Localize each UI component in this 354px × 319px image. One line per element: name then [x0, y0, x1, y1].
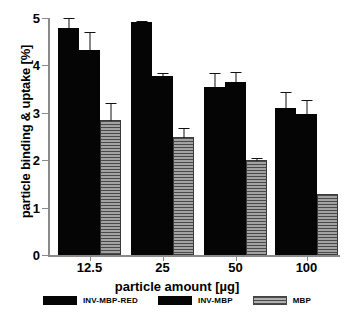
x-axis-tick-label: 25: [128, 261, 198, 274]
x-axis-tick: [90, 257, 91, 261]
x-axis-tick-label: 100: [272, 261, 342, 274]
x-axis-tick-label: 12.5: [55, 261, 125, 274]
bar-group: [204, 18, 267, 255]
error-bar: [68, 18, 69, 28]
bar-mbp-50: [246, 160, 267, 255]
error-bar: [162, 73, 163, 76]
y-axis-title: particle binding & uptake [%]: [18, 12, 33, 252]
y-axis-tick: [42, 255, 49, 256]
bar-inv-mbp-red-100: [275, 108, 296, 255]
chart-legend: INV-MBP-REDINV-MBPMBP: [0, 296, 354, 305]
legend-item-mbp: MBP: [253, 296, 311, 305]
bar-group: [58, 18, 121, 255]
y-axis-tick: [42, 65, 49, 66]
x-axis-tick: [163, 257, 164, 261]
error-bar: [183, 128, 184, 137]
error-bar-cap: [280, 92, 291, 93]
legend-swatch: [158, 296, 192, 305]
x-axis-tick-label: 50: [201, 261, 271, 274]
error-bar: [235, 72, 236, 82]
legend-swatch: [253, 296, 287, 305]
error-bar-cap: [84, 32, 95, 33]
error-bar-cap: [136, 21, 147, 22]
bar-inv-mbp-25: [152, 76, 173, 255]
legend-item-inv-mbp: INV-MBP: [158, 296, 233, 305]
legend-swatch: [43, 296, 77, 305]
error-bar: [110, 103, 111, 121]
error-bar: [285, 92, 286, 108]
x-axis-tick: [307, 257, 308, 261]
bar-inv-mbp-red-50: [204, 87, 225, 255]
x-axis-tick: [236, 257, 237, 261]
error-bar: [141, 21, 142, 22]
x-axis-line: [48, 255, 340, 257]
bar-mbp-25: [173, 137, 194, 256]
error-bar-cap: [157, 73, 168, 74]
bar-group: [131, 18, 194, 255]
error-bar: [89, 32, 90, 50]
legend-label: INV-MBP: [198, 296, 233, 305]
legend-label: MBP: [293, 296, 311, 305]
x-axis-title: particle amount [µg]: [0, 279, 354, 294]
y-axis-tick: [42, 208, 49, 209]
error-bar: [214, 73, 215, 87]
legend-label: INV-MBP-RED: [83, 296, 138, 305]
error-bar: [306, 100, 307, 115]
bar-mbp-100: [317, 194, 338, 255]
error-bar-cap: [178, 128, 189, 129]
error-bar-cap: [105, 103, 116, 104]
error-bar: [256, 158, 257, 161]
plot-area: [48, 18, 338, 255]
bar-inv-mbp-100: [296, 114, 317, 255]
error-bar-cap: [63, 18, 74, 19]
bar-group: [275, 18, 338, 255]
bar-inv-mbp-50: [225, 82, 246, 255]
y-axis-tick: [42, 160, 49, 161]
error-bar-cap: [230, 72, 241, 73]
chart-figure: 012345 particle binding & uptake [%] 12.…: [0, 0, 354, 319]
bar-inv-mbp-12.5: [79, 50, 100, 255]
error-bar-cap: [251, 158, 262, 159]
error-bar-cap: [209, 73, 220, 74]
y-axis-tick: [42, 113, 49, 114]
error-bar-cap: [301, 100, 312, 101]
bar-mbp-12.5: [100, 120, 121, 255]
bar-inv-mbp-red-12.5: [58, 28, 79, 255]
legend-item-inv-mbp-red: INV-MBP-RED: [43, 296, 138, 305]
bar-inv-mbp-red-25: [131, 22, 152, 255]
y-axis-tick: [42, 18, 49, 19]
